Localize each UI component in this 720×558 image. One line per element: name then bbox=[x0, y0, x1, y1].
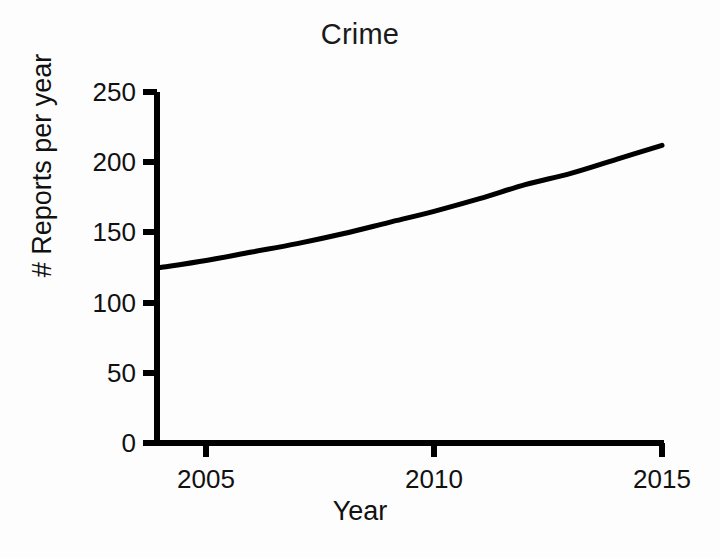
y-tick-label-50: 50 bbox=[107, 358, 136, 388]
data-series-line bbox=[160, 145, 662, 267]
y-axis-title-wrapper: # Reports per year bbox=[27, 0, 58, 336]
y-tick-labels: 250 200 150 100 50 0 bbox=[93, 77, 136, 458]
x-axis-title: Year bbox=[0, 496, 720, 527]
y-tick-label-200: 200 bbox=[93, 147, 136, 177]
y-tick-label-100: 100 bbox=[93, 288, 136, 318]
y-tick-label-150: 150 bbox=[93, 217, 136, 247]
chart-plot-area: 250 200 150 100 50 0 2005 2010 2015 bbox=[0, 0, 720, 558]
x-tick-label-2015: 2015 bbox=[633, 464, 691, 494]
x-tick-label-2010: 2010 bbox=[405, 464, 463, 494]
x-tick-label-2005: 2005 bbox=[177, 464, 235, 494]
y-tick-label-250: 250 bbox=[93, 77, 136, 107]
x-tick-labels: 2005 2010 2015 bbox=[177, 464, 691, 494]
y-axis-title: # Reports per year bbox=[27, 54, 57, 278]
chart-figure: Crime 250 200 150 100 50 0 bbox=[0, 0, 720, 558]
y-tick-label-0: 0 bbox=[122, 428, 136, 458]
